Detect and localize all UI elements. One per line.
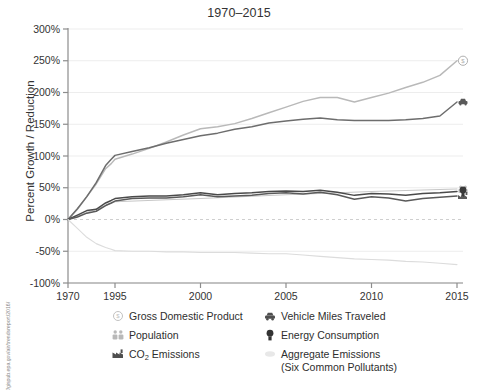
legend-item[interactable]: Vehicle Miles Traveled <box>264 310 464 322</box>
plot-area: 300%250%200%150%100%50%0%-50%-100%197019… <box>0 0 478 300</box>
car-icon <box>264 310 276 322</box>
dollar-circle-icon: $ <box>112 310 124 322</box>
person-body-left <box>113 334 118 339</box>
y-axis-tick-label: -50% <box>35 245 60 257</box>
x-axis-tick-label: 1995 <box>103 290 127 300</box>
factory-icon <box>113 353 124 358</box>
x-axis-tick-label: 2010 <box>360 290 384 300</box>
bulb-icon <box>264 329 276 341</box>
series-line-vehicle-miles-traveled <box>68 102 457 219</box>
car-roof <box>460 99 466 101</box>
dollar-circle-icon: $ <box>112 310 124 322</box>
car-wheel-left <box>459 103 461 105</box>
bulb-icon <box>264 329 276 341</box>
y-axis-tick-label: 250% <box>33 54 60 66</box>
x-axis-tick-label: 2015 <box>445 290 469 300</box>
endpoint-bulb-icon <box>460 187 467 197</box>
factory-chimney <box>121 349 123 353</box>
y-axis-tick-label: -100% <box>30 277 60 289</box>
legend-item-label: CO2 Emissions <box>129 348 200 364</box>
legend-item-label: Population <box>129 329 179 341</box>
factory-icon <box>112 348 124 360</box>
factory-icon <box>112 348 124 360</box>
car-roof <box>267 313 274 316</box>
bulb-globe <box>460 187 467 194</box>
legend-item-label: Gross Domestic Product <box>129 310 243 322</box>
x-axis-tick-label: 2000 <box>189 290 213 300</box>
person-body-right <box>119 334 124 339</box>
people-icon <box>112 329 124 341</box>
x-axis-tick-label: 1970 <box>56 290 80 300</box>
y-axis-tick-label: 0% <box>45 213 60 225</box>
car-wheel-right <box>271 318 273 320</box>
person-head-right <box>119 330 122 333</box>
endpoint-dollar-circle-icon: $ <box>458 56 467 65</box>
person-head-left <box>114 330 117 333</box>
chart-legend: $Gross Domestic ProductVehicle Miles Tra… <box>112 310 462 373</box>
factory-chimney <box>466 192 468 195</box>
car-wheel-left <box>266 318 268 320</box>
people-icon <box>112 329 124 341</box>
car-body <box>265 315 275 318</box>
car-icon <box>264 310 276 322</box>
y-axis-tick-label: 50% <box>39 181 60 193</box>
legend-item-label: Vehicle Miles Traveled <box>281 310 385 322</box>
legend-item[interactable]: Energy Consumption <box>264 329 464 341</box>
cloud-icon <box>264 348 276 360</box>
car-wheel-right <box>465 103 467 105</box>
legend-item[interactable]: CO2 Emissions <box>112 348 264 373</box>
cloud-icon <box>265 351 275 357</box>
legend-item[interactable]: Population <box>112 329 264 341</box>
legend-item-label: Aggregate Emissions(Six Common Pollutant… <box>281 348 397 373</box>
chart-figure: 1970–2015 Percent Growth / Reduction Sou… <box>0 0 478 390</box>
bulb-globe <box>267 330 274 337</box>
legend-label-subscript: 2 <box>145 353 149 362</box>
legend-item[interactable]: Aggregate Emissions(Six Common Pollutant… <box>264 348 464 373</box>
cloud-icon <box>264 348 276 360</box>
y-axis-tick-label: 300% <box>33 23 60 35</box>
y-axis-tick-label: 150% <box>33 118 60 130</box>
x-axis-tick-label: 2005 <box>274 290 298 300</box>
legend-item[interactable]: $Gross Domestic Product <box>112 310 264 322</box>
bulb-base <box>268 336 271 340</box>
y-axis-tick-label: 200% <box>33 86 60 98</box>
legend-item-label: Energy Consumption <box>281 329 379 341</box>
endpoint-car-icon <box>459 99 468 106</box>
y-axis-tick-label: 100% <box>33 150 60 162</box>
series-line-aggregate-emissions-six-common-pollutants <box>68 220 457 265</box>
